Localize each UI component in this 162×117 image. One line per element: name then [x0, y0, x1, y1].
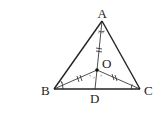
segment-co [97, 70, 140, 89]
label-c: C [144, 83, 153, 98]
svg-text:×: × [100, 73, 102, 78]
tick-marks-bo [77, 75, 82, 82]
svg-text:×: × [89, 73, 91, 78]
svg-text:×: × [61, 80, 63, 85]
angle-marks: × × × × × × × [61, 30, 133, 89]
label-a: A [98, 6, 108, 21]
label-b: B [41, 83, 50, 98]
geometry-diagram: × × × × × × × A B C O D [0, 0, 162, 117]
point-o [95, 68, 99, 72]
label-o: O [102, 56, 111, 71]
svg-text:×: × [131, 82, 133, 87]
label-d: D [90, 91, 99, 106]
svg-text:×: × [93, 75, 95, 80]
svg-text:×: × [98, 30, 100, 35]
svg-text:×: × [102, 30, 104, 35]
segment-od [95, 70, 97, 89]
side-ac [102, 21, 140, 89]
